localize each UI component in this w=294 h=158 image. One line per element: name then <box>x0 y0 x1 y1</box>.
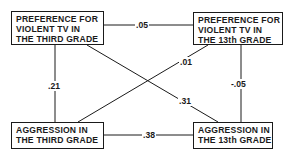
node-label-line: PREFERENCE FOR <box>198 15 279 25</box>
node-label-line: THE 13th GRADE <box>198 35 279 45</box>
edge-tv3-agg13 <box>87 45 218 122</box>
coefficient-tv13-agg13: -.05 <box>230 79 247 89</box>
node-label-line: THE THIRD GRADE <box>16 34 100 44</box>
node-violent-tv-13th-grade: PREFERENCE FOR VIOLENT TV IN THE 13th GR… <box>193 12 283 45</box>
node-label-line: VIOLENT TV IN <box>198 25 279 35</box>
coefficient-tv3-tv13: .05 <box>135 20 149 30</box>
coefficient-tv3-agg13: .31 <box>178 96 192 106</box>
coefficient-agg3-agg13: .38 <box>142 130 156 140</box>
node-label-line: PREFERENCE FOR <box>16 14 100 24</box>
node-violent-tv-third-grade: PREFERENCE FOR VIOLENT TV IN THE THIRD G… <box>11 11 104 45</box>
node-label-line: THE THIRD GRADE <box>16 135 100 145</box>
node-aggression-third-grade: AGGRESSION IN THE THIRD GRADE <box>11 122 104 149</box>
node-label-line: THE 13th GRADE <box>198 135 269 145</box>
coefficient-agg3-tv13: .01 <box>179 57 193 67</box>
coefficient-tv3-agg3: .21 <box>47 81 61 91</box>
node-aggression-13th-grade: AGGRESSION IN THE 13th GRADE <box>193 122 273 149</box>
node-label-line: VIOLENT TV IN <box>16 24 100 34</box>
node-label-line: AGGRESSION IN <box>198 125 269 135</box>
node-label-line: AGGRESSION IN <box>16 125 100 135</box>
